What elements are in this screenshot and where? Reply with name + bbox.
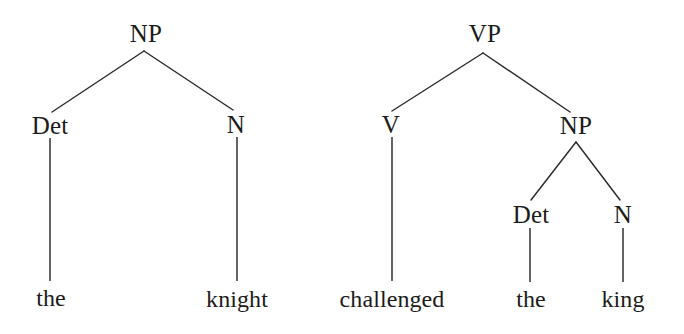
- node-n-right: N: [614, 202, 632, 227]
- leaf-challenged: challenged: [340, 287, 445, 311]
- leaf-the-2: the: [516, 287, 546, 311]
- edge-np2-to-n: [576, 142, 620, 200]
- node-np-object: NP: [560, 113, 592, 138]
- node-vp-root: VP: [469, 21, 501, 46]
- leaf-knight: knight: [206, 287, 268, 311]
- node-np-root: NP: [130, 21, 162, 46]
- tree-edges: [0, 0, 684, 334]
- leaf-king: king: [601, 287, 644, 311]
- leaf-the-1: the: [36, 286, 66, 310]
- node-v: V: [382, 112, 400, 137]
- edge-vp-to-v: [392, 53, 483, 111]
- syntax-tree-figure: NP Det N the knight VP V NP Det N challe…: [0, 0, 684, 334]
- node-det-right: Det: [513, 202, 550, 227]
- edge-np-to-det: [52, 51, 144, 112]
- node-n-left: N: [227, 112, 245, 137]
- edge-np2-to-det: [531, 142, 576, 200]
- node-det-left: Det: [32, 113, 69, 138]
- edge-vp-to-np: [483, 53, 570, 112]
- edge-np-to-n: [144, 51, 233, 110]
